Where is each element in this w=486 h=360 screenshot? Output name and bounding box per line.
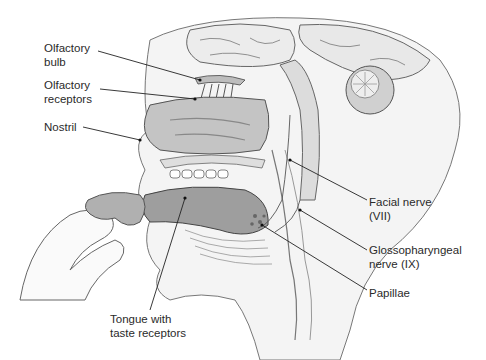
- label-line: nerve (IX): [369, 257, 462, 271]
- nasal-cavity: [144, 97, 269, 154]
- label-olfactory-bulb: Olfactory bulb: [44, 41, 90, 69]
- label-line: receptors: [44, 92, 92, 106]
- teeth: [170, 170, 228, 178]
- cerebrum: [187, 24, 295, 67]
- label-line: Olfactory: [44, 78, 92, 92]
- label-glossopharyngeal-nerve: Glossopharyngeal nerve (IX): [369, 243, 462, 271]
- label-olfactory-receptors: Olfactory receptors: [44, 78, 92, 106]
- label-line: Olfactory: [44, 41, 90, 55]
- label-line: Facial nerve: [369, 195, 432, 209]
- label-papillae: Papillae: [369, 286, 410, 300]
- label-line: (VII): [369, 209, 432, 223]
- label-line: Tongue with: [110, 312, 186, 326]
- label-line: bulb: [44, 55, 90, 69]
- label-tongue: Tongue with taste receptors: [110, 312, 186, 340]
- label-line: taste receptors: [110, 326, 186, 340]
- label-line: Nostril: [44, 120, 77, 134]
- label-nostril: Nostril: [44, 120, 77, 134]
- anatomy-diagram: Olfactory bulb Olfactory receptors Nostr…: [0, 0, 486, 360]
- label-facial-nerve: Facial nerve (VII): [369, 195, 432, 223]
- hand: [20, 210, 124, 300]
- label-line: Papillae: [369, 286, 410, 300]
- label-line: Glossopharyngeal: [369, 243, 462, 257]
